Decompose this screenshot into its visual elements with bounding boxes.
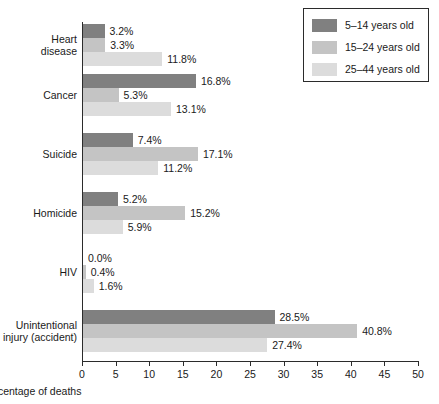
bar-row: 3.3% (83, 38, 419, 52)
bar-value-label-1-1: 5.3% (124, 89, 148, 101)
category-label-5: Unintentionalinjury (accident) (0, 319, 77, 344)
bar-value-label-5-0: 28.5% (280, 311, 310, 323)
bar-2-2 (83, 161, 158, 175)
category-label-line: disease (0, 45, 77, 58)
bar-row: 13.1% (83, 102, 419, 116)
bar-row: 5.2% (83, 192, 419, 206)
bar-value-label-0-1: 3.3% (110, 39, 134, 51)
bar-group-5: Unintentionalinjury (accident)28.5%40.8%… (83, 310, 419, 352)
bar-value-label-3-1: 15.2% (190, 207, 220, 219)
category-label-line: Unintentional (0, 319, 77, 332)
bar-group-2: Suicide7.4%17.1%11.2% (83, 133, 419, 175)
bar-row: 0.0% (83, 251, 419, 265)
x-tick-label-35: 35 (311, 368, 323, 380)
bar-value-label-5-2: 27.4% (272, 339, 302, 351)
bar-4-1 (83, 265, 86, 279)
bar-3-0 (83, 192, 118, 206)
x-tick-15 (183, 361, 184, 366)
bar-row: 28.5% (83, 310, 419, 324)
x-tick-30 (284, 361, 285, 366)
bar-group-0: Heartdisease3.2%3.3%11.8% (83, 24, 419, 66)
category-label-3: Homicide (0, 207, 77, 220)
x-tick-50 (418, 361, 419, 366)
x-tick-45 (384, 361, 385, 366)
bar-row: 0.4% (83, 265, 419, 279)
category-label-line: Suicide (0, 148, 77, 161)
x-tick-20 (216, 361, 217, 366)
bar-value-label-4-1: 0.4% (91, 266, 115, 278)
bar-5-0 (83, 310, 275, 324)
bar-3-2 (83, 220, 123, 234)
x-tick-label-50: 50 (412, 368, 424, 380)
bar-1-2 (83, 102, 171, 116)
bar-row: 27.4% (83, 338, 419, 352)
bar-value-label-0-2: 11.8% (167, 53, 196, 65)
x-tick-label-25: 25 (244, 368, 256, 380)
bar-value-label-2-2: 11.2% (163, 162, 192, 174)
bar-value-label-3-2: 5.9% (128, 221, 152, 233)
bar-0-1 (83, 38, 105, 52)
category-label-0: Heartdisease (0, 33, 77, 58)
bar-value-label-2-1: 17.1% (203, 148, 233, 160)
category-label-line: Homicide (0, 207, 77, 220)
bar-row: 40.8% (83, 324, 419, 338)
bar-value-label-4-0: 0.0% (88, 252, 112, 264)
x-tick-25 (250, 361, 251, 366)
x-tick-label-40: 40 (345, 368, 357, 380)
category-label-2: Suicide (0, 148, 77, 161)
x-tick-35 (317, 361, 318, 366)
bar-row: 15.2% (83, 206, 419, 220)
category-label-line: Heart (0, 33, 77, 46)
bar-5-1 (83, 324, 357, 338)
bar-row: 17.1% (83, 147, 419, 161)
bar-4-2 (83, 279, 94, 293)
x-tick-0 (82, 361, 83, 366)
bar-value-label-4-2: 1.6% (99, 280, 123, 292)
x-tick-label-45: 45 (379, 368, 391, 380)
bar-3-1 (83, 206, 185, 220)
x-tick-40 (351, 361, 352, 366)
bar-row: 1.6% (83, 279, 419, 293)
bar-group-1: Cancer16.8%5.3%13.1% (83, 74, 419, 116)
x-tick-label-20: 20 (211, 368, 223, 380)
bar-row: 16.8% (83, 74, 419, 88)
bar-chart: 5–14 years old 15–24 years old 25–44 yea… (0, 0, 439, 404)
x-axis-label: Percentage of deaths (0, 385, 439, 397)
category-label-line: Cancer (0, 89, 77, 102)
category-label-line: injury (accident) (0, 331, 77, 344)
bar-row: 11.8% (83, 52, 419, 66)
bar-2-0 (83, 133, 133, 147)
bar-row: 5.9% (83, 220, 419, 234)
x-tick-label-10: 10 (143, 368, 155, 380)
x-tick-label-15: 15 (177, 368, 189, 380)
bar-value-label-2-0: 7.4% (138, 134, 162, 146)
category-label-4: HIV (0, 266, 77, 279)
bar-group-3: Homicide5.2%15.2%5.9% (83, 192, 419, 234)
bar-value-label-5-1: 40.8% (362, 325, 392, 337)
x-tick-label-30: 30 (278, 368, 290, 380)
bar-row: 5.3% (83, 88, 419, 102)
bar-0-2 (83, 52, 162, 66)
bar-5-2 (83, 338, 267, 352)
plot-area: 05101520253035404550 Heartdisease3.2%3.3… (0, 0, 439, 404)
bar-value-label-1-2: 13.1% (176, 103, 206, 115)
x-tick-10 (149, 361, 150, 366)
x-tick-label-5: 5 (113, 368, 119, 380)
bar-1-0 (83, 74, 196, 88)
bar-value-label-3-0: 5.2% (123, 193, 147, 205)
category-label-line: HIV (0, 266, 77, 279)
bar-row: 7.4% (83, 133, 419, 147)
category-label-1: Cancer (0, 89, 77, 102)
x-tick-5 (116, 361, 117, 366)
bar-1-1 (83, 88, 119, 102)
bar-value-label-0-0: 3.2% (110, 25, 134, 37)
bar-value-label-1-0: 16.8% (201, 75, 231, 87)
bar-2-1 (83, 147, 198, 161)
bar-0-0 (83, 24, 105, 38)
x-tick-label-0: 0 (79, 368, 85, 380)
bar-group-4: HIV0.0%0.4%1.6% (83, 251, 419, 293)
bar-row: 3.2% (83, 24, 419, 38)
bar-row: 11.2% (83, 161, 419, 175)
